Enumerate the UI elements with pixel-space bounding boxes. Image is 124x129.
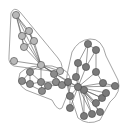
graph-node [44,82,51,89]
graph-node [12,11,19,18]
graph-node [92,99,99,106]
graph-node [37,78,44,85]
graph-node [38,87,45,94]
graph-node [84,40,91,47]
graph-node [66,92,73,99]
network-graph [0,0,124,129]
graph-node [74,83,81,90]
graph-node [92,46,99,53]
graph-node [18,32,25,39]
graph-node [92,68,99,75]
graph-node [102,89,109,96]
graph-node [96,108,103,115]
graph-edge [29,31,41,65]
graph-node [111,82,118,89]
graph-node [99,79,106,86]
graph-edge [14,61,41,65]
graph-node [26,68,33,75]
graph-node [10,57,17,64]
graph-node [80,112,87,119]
graph-node [20,43,27,50]
graph-node [88,110,95,117]
graph-node [26,80,33,87]
graph-node [74,59,81,66]
graph-node [37,61,44,68]
graph-node [64,78,71,85]
graph-node [72,73,79,80]
graph-node [66,104,73,111]
graph-node [25,27,32,34]
graph-node [82,63,89,70]
graph-node [50,70,57,77]
graph-node [30,37,37,44]
graph-node [18,77,25,84]
